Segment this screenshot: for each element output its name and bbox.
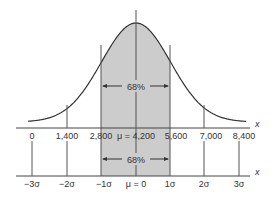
tick-label: 1,400 xyxy=(56,131,79,141)
tick-label: 3σ xyxy=(234,179,245,189)
tick-label: 5,600 xyxy=(165,131,188,141)
tick-label: μ = 0 xyxy=(126,179,146,189)
normal-distribution-diagram: x x 0 1,400 2,800 μ = 4,200 5,600 7,000 … xyxy=(0,0,276,198)
tick-label: 0 xyxy=(29,131,34,141)
percent-label-lower: 68% xyxy=(127,155,145,165)
x-axis-bottom-label: x xyxy=(254,167,260,177)
percent-label-upper: 68% xyxy=(127,82,145,92)
tick-label: −1σ xyxy=(96,179,112,189)
tick-label: μ = 4,200 xyxy=(117,131,155,141)
tick-label: 2,800 xyxy=(90,131,113,141)
bottom-tick-labels: −3σ −2σ −1σ μ = 0 1σ 2σ 3σ xyxy=(24,179,245,189)
tick-label: 1σ xyxy=(165,179,176,189)
tick-label: 2σ xyxy=(199,179,210,189)
top-tick-labels: 0 1,400 2,800 μ = 4,200 5,600 7,000 8,40… xyxy=(29,131,255,141)
tick-label: 7,000 xyxy=(200,131,223,141)
tick-label: 8,400 xyxy=(233,131,256,141)
x-axis-top-label: x xyxy=(254,119,260,129)
tick-label: −3σ xyxy=(24,179,40,189)
tick-label: −2σ xyxy=(59,179,75,189)
